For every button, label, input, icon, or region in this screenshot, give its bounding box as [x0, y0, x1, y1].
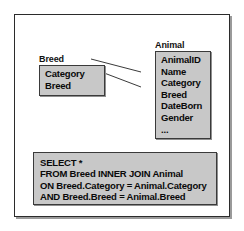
entity-field: Name [161, 66, 208, 78]
entity-label-breed: Breed [39, 54, 64, 64]
diagram-panel: Breed Category Breed Animal AnimalID Nam… [14, 14, 230, 217]
sql-statement-text: SELECT * FROM Breed INNER JOIN Animal ON… [40, 157, 207, 203]
entity-field: Gender [161, 112, 208, 124]
sql-statement-box[interactable]: SELECT * FROM Breed INNER JOIN Animal ON… [33, 152, 217, 205]
entity-field: Category [45, 68, 102, 80]
entity-label-animal: Animal [155, 40, 184, 50]
entity-field: Breed [45, 80, 102, 92]
sql-line: AND Breed.Breed = Animal.Breed [40, 191, 207, 202]
entity-field-list-animal: AnimalID Name Category Breed DateBorn Ge… [161, 54, 208, 135]
sql-line: FROM Breed INNER JOIN Animal [40, 168, 207, 179]
sql-line: ON Breed.Category = Animal.Category [40, 180, 207, 191]
entity-field: AnimalID [161, 54, 208, 66]
entity-box-breed[interactable]: Category Breed [39, 65, 105, 96]
entity-field-list-breed: Category Breed [45, 68, 102, 91]
entity-field: Breed [161, 89, 208, 101]
entity-field: DateBorn [161, 100, 208, 112]
sql-line: SELECT * [40, 157, 207, 168]
entity-field-ellipsis: ... [161, 124, 208, 136]
entity-box-animal[interactable]: AnimalID Name Category Breed DateBorn Ge… [155, 51, 211, 139]
entity-field: Category [161, 77, 208, 89]
